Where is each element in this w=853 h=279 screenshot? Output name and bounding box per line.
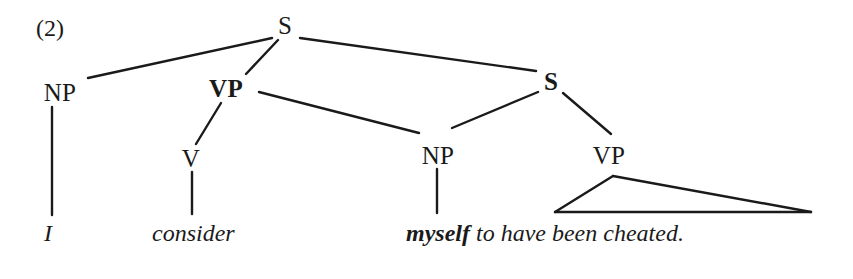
terminal-word-myself: myself (406, 220, 470, 246)
tree-node-np-subj: NP (44, 80, 77, 105)
tree-node-vp-emb: VP (593, 143, 626, 168)
terminal-phrase-infinitive: to have been cheated. (476, 220, 684, 246)
tree-node-vp-main: VP (209, 76, 243, 101)
tree-node-s-top: S (278, 13, 292, 38)
tree-node-np-obj: NP (422, 143, 455, 168)
tree-node-layer: (2) SNPVPSVNPVP Iconsider myself to have… (0, 0, 853, 279)
tree-node-s-embed: S (544, 69, 558, 94)
terminal-clause: myself to have been cheated. (406, 221, 684, 245)
syntax-tree-figure: (2) SNPVPSVNPVP Iconsider myself to have… (0, 0, 853, 279)
terminal-term-v: consider (152, 221, 235, 245)
terminal-term-i: I (44, 221, 52, 245)
tree-node-v-head: V (182, 146, 200, 171)
example-number-label: (2) (36, 16, 64, 40)
